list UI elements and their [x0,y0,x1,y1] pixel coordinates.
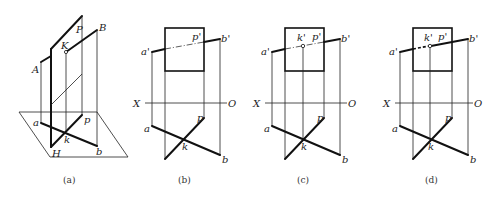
p-plane-inner-line [51,74,82,105]
panel-d: a' k' p' b' X O a p k b [382,28,482,165]
line-ab-prime-hidden [165,42,204,49]
panel-c: a' k' p' b' X O a p k b [252,28,356,165]
label-p: p [84,114,91,125]
point-k-prime [428,44,431,47]
line-ab-prime-visible [431,39,468,46]
label-p-prime: p' [192,31,201,42]
caption-d: (d) [425,175,438,185]
label-a-prime: a' [141,46,150,57]
label-p-plane: P [75,24,83,35]
label-p: p [197,112,204,123]
label-p-prime: p' [438,31,447,42]
label-b: b [222,154,228,165]
caption-b: (b) [178,175,191,185]
p-trace [165,118,204,159]
label-a: a [144,123,150,134]
label-a: a [33,117,39,128]
line-ab-prime-left [400,49,413,52]
line-ab-prime-right [324,39,340,42]
label-a: a [392,123,398,134]
label-b-prime: b' [341,33,350,44]
label-k: k [182,141,188,152]
label-k: k [428,141,434,152]
label-p: p [317,112,324,123]
label-k-upper: K [60,40,69,51]
label-b-prime: b' [221,33,230,44]
line-ab-prime-right [204,39,220,42]
label-h: H [51,148,61,159]
panel-b: a' p' b' X O a p k b [132,28,236,165]
label-a-upper: A [31,64,39,75]
label-k: k [64,134,70,145]
label-k-prime: k' [297,32,306,43]
point-k-prime [301,44,304,47]
p-trace [413,118,452,159]
line-ab-prime-left [152,49,165,52]
line-ab-prime-left [272,49,285,52]
label-p-prime: p' [312,31,321,42]
label-a-prime: a' [261,46,270,57]
label-b: b [470,154,476,165]
caption-c: (c) [297,175,309,185]
panel-a: P B K A a p k b H [19,16,128,159]
label-p: p [445,112,452,123]
label-a-prime: a' [389,46,398,57]
label-o: O [228,98,236,109]
label-x: X [252,98,261,109]
label-k: k [301,141,307,152]
label-a: a [264,123,270,134]
label-x: X [382,98,391,109]
label-b: b [342,154,348,165]
label-x: X [132,98,141,109]
p-trace [285,118,324,159]
label-o: O [474,98,482,109]
label-b-lower: b [96,146,102,157]
label-b-prime: b' [469,33,478,44]
label-b: B [98,22,106,33]
line-ab-left [41,56,51,62]
label-k-prime: k' [424,32,433,43]
caption-a: (a) [63,175,75,185]
projection-diagram: P B K A a p k b H a' p' b' X O a p k b [0,0,490,197]
line-ab-prime-hidden [413,46,429,49]
label-o: O [348,98,356,109]
